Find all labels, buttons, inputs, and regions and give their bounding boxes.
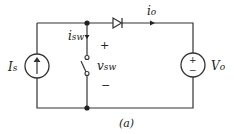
circuit-diagram: Is isw + vsw − io + − Vo (a) — [0, 0, 234, 134]
switch-contact-bottom — [85, 72, 89, 76]
arrow-right-icon — [150, 21, 155, 26]
diode-icon — [113, 18, 122, 28]
output-current-label: io — [147, 5, 156, 17]
voltage-source-plus: + — [189, 56, 197, 65]
figure-caption: (a) — [119, 118, 134, 129]
switch-voltage-label: vsw — [97, 60, 116, 72]
output-voltage-label: Vo — [211, 60, 225, 72]
source-current-label: Is — [8, 61, 17, 73]
switch-current-label: isw — [68, 30, 84, 42]
circuit-schematic — [0, 0, 234, 134]
node-top — [84, 20, 89, 25]
top-wire-right — [122, 23, 193, 53]
switch-voltage-minus: − — [101, 80, 110, 91]
node-bottom — [84, 105, 89, 110]
bottom-wire — [37, 77, 193, 108]
arrow-down-icon — [85, 35, 90, 39]
switch-blade — [81, 61, 86, 72]
voltage-source-minus: − — [189, 66, 197, 75]
switch-contact-top — [85, 56, 89, 60]
switch-voltage-plus: + — [100, 40, 109, 51]
